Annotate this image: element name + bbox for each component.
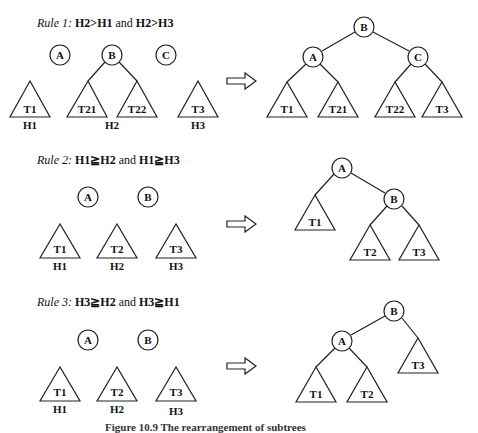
- subtree-label: T3: [412, 359, 425, 371]
- node-label: A: [338, 335, 346, 347]
- node-label: A: [84, 191, 92, 203]
- node-label: B: [390, 193, 398, 205]
- diagram-canvas: A B C T1 T21 T22 T3 H1 H2 H3 B A C T1 T2…: [0, 0, 478, 433]
- node-label: A: [309, 51, 317, 63]
- height-label: H3: [169, 260, 184, 272]
- subtree-label: T3: [170, 386, 183, 398]
- node-label: A: [84, 334, 92, 346]
- height-label: H3: [191, 119, 206, 131]
- subtree-label: T3: [170, 243, 183, 255]
- subtree-label: T1: [309, 216, 322, 228]
- subtree-label: T21: [78, 103, 96, 115]
- node-label: A: [338, 162, 346, 174]
- subtree-label: T3: [436, 103, 449, 115]
- height-label: H1: [53, 260, 67, 272]
- node-label: C: [162, 49, 170, 61]
- height-label: H2: [105, 119, 120, 131]
- subtree-label: T2: [111, 243, 124, 255]
- figure-caption: Figure 10.9 The rearrangement of subtree…: [105, 421, 306, 433]
- height-label: H2: [110, 260, 125, 272]
- node-label: B: [390, 305, 398, 317]
- subtree-label: T3: [413, 246, 426, 258]
- subtree-label: T1: [310, 388, 323, 400]
- subtree-label: T22: [386, 103, 405, 115]
- subtree-label: T1: [24, 103, 37, 115]
- subtree-label: T22: [128, 103, 147, 115]
- height-label: H1: [53, 403, 67, 415]
- node-label: B: [360, 21, 368, 33]
- node-label: C: [414, 51, 422, 63]
- subtree-label: T2: [361, 388, 374, 400]
- subtree-label: T21: [329, 103, 347, 115]
- subtree-label: T2: [111, 386, 124, 398]
- subtree-label: T1: [281, 103, 294, 115]
- node-label: B: [144, 334, 152, 346]
- height-label: H2: [110, 403, 125, 415]
- node-label: B: [108, 49, 116, 61]
- node-label: A: [56, 49, 64, 61]
- height-label: H1: [23, 119, 37, 131]
- subtree-label: T2: [364, 246, 377, 258]
- subtree-label: T3: [192, 103, 205, 115]
- node-label: B: [144, 191, 152, 203]
- height-label: H3: [169, 405, 184, 417]
- arrow-icon: [227, 73, 256, 89]
- subtree-label: T1: [54, 243, 67, 255]
- subtree-label: T1: [54, 386, 67, 398]
